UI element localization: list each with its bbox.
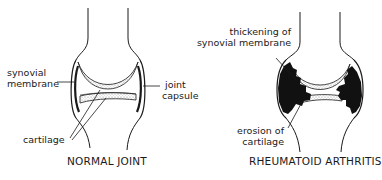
panel-title-normal-joint: NORMAL JOINT — [67, 155, 147, 167]
upper-bone-outline — [76, 8, 88, 60]
normal-joint-drawing — [71, 8, 145, 150]
label-line: synovial — [7, 68, 59, 79]
upper-cartilage — [78, 62, 138, 89]
label-line: thickening of — [196, 27, 291, 38]
lower-cartilage — [80, 93, 136, 103]
label-line: synovial membrane — [196, 38, 291, 49]
thickened-synovium-left — [278, 62, 311, 114]
label-line: capsule — [162, 91, 199, 102]
label-line: cartilage — [220, 137, 284, 148]
label-line: membrane — [7, 79, 59, 90]
label-thickening-synovial-membrane: thickening of synovial membrane — [196, 27, 291, 48]
label-joint-capsule: joint capsule — [162, 80, 199, 101]
label-line: joint — [162, 80, 199, 91]
panel-title-rheumatoid-arthritis: RHEUMATOID ARTHRITIS — [249, 155, 382, 167]
label-synovial-membrane: synovial membrane — [7, 68, 59, 89]
label-erosion-of-cartilage: erosion of cartilage — [220, 126, 284, 147]
thickened-synovium-right — [336, 66, 362, 114]
label-cartilage: cartilage — [23, 135, 65, 146]
label-line: erosion of — [220, 126, 284, 137]
lower-bone-outline — [286, 118, 300, 152]
